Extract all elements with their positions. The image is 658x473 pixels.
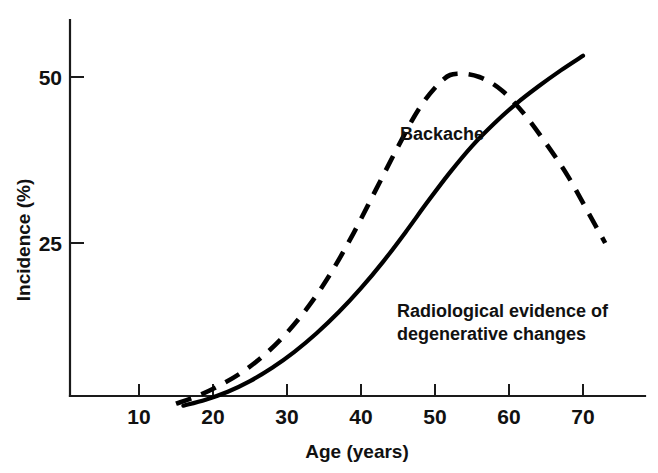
series-annotation-radiological-line2: degenerative changes	[397, 324, 586, 344]
x-tick-label-50: 50	[423, 405, 446, 428]
series-annotation-backache: Backache	[400, 124, 484, 144]
x-tick-label-20: 20	[201, 405, 224, 428]
y-tick-label-25: 25	[39, 232, 63, 255]
series-annotation-radiological-line1: Radiological evidence of	[397, 301, 609, 321]
chart-figure: 50 25 10 20 30 40 50 60 70 Age (years) I…	[0, 0, 658, 473]
x-tick-label-40: 40	[349, 405, 372, 428]
x-tick-label-60: 60	[497, 405, 520, 428]
y-axis-title: Incidence (%)	[13, 179, 34, 301]
incidence-vs-age-chart: 50 25 10 20 30 40 50 60 70 Age (years) I…	[0, 0, 658, 473]
series-line-backache	[176, 74, 605, 404]
series-line-radiological-evidence	[183, 56, 583, 406]
x-tick-label-30: 30	[275, 405, 298, 428]
x-axis-title: Age (years)	[305, 441, 409, 462]
y-tick-label-50: 50	[39, 66, 62, 89]
x-tick-label-10: 10	[127, 405, 150, 428]
x-tick-label-70: 70	[571, 405, 594, 428]
